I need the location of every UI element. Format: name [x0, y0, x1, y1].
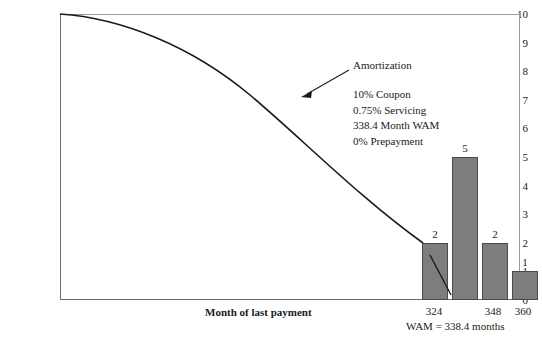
- x-axis-title: Month of last payment: [205, 306, 312, 318]
- bar-360: [512, 271, 538, 300]
- bar-330: [452, 157, 478, 300]
- plot-area: [60, 14, 520, 300]
- wam-footnote: WAM = 338.4 months: [406, 320, 504, 332]
- x-tick-label-360: 360: [503, 305, 542, 317]
- bar-348: [482, 243, 508, 300]
- assumption-coupon: 10% Coupon: [353, 87, 439, 103]
- assumption-wam: 338.4 Month WAM: [353, 118, 439, 134]
- bar-324: [422, 243, 448, 300]
- annotation-title: Amortization: [353, 59, 412, 72]
- bar-value-330: 5: [450, 142, 480, 154]
- assumption-servicing: 0.75% Servicing: [353, 103, 439, 119]
- bar-value-324: 2: [420, 228, 450, 240]
- x-tick-label-324: 324: [414, 305, 454, 317]
- assumption-prepayment: 0% Prepayment: [353, 134, 439, 150]
- annotation-assumptions: 10% Coupon 0.75% Servicing 338.4 Month W…: [353, 87, 439, 149]
- bar-value-348: 2: [480, 228, 510, 240]
- bar-value-360: 1: [510, 256, 540, 268]
